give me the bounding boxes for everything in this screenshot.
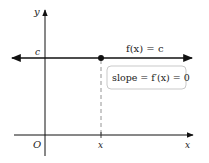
- point-x-label: x: [98, 140, 103, 150]
- origin-label: O: [33, 139, 41, 150]
- constant-function-diagram: y c O x x f(x) = c slope = f′(x) = 0: [0, 0, 209, 163]
- x-axis-label: x: [185, 140, 190, 150]
- point-on-line: [98, 55, 104, 61]
- function-label: f(x) = c: [126, 43, 164, 54]
- c-level-label: c: [35, 47, 40, 57]
- y-axis-label: y: [33, 6, 40, 17]
- slope-annotation-text: slope = f′(x) = 0: [112, 72, 190, 83]
